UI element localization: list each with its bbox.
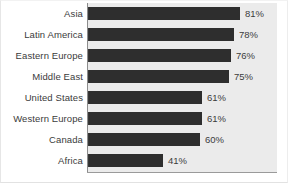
bar <box>88 112 202 125</box>
category-label: Latin America <box>0 24 83 45</box>
bar <box>88 7 240 20</box>
value-label: 75% <box>234 68 253 85</box>
bar-row: Latin America 78% <box>0 24 288 45</box>
bar-row: Asia 81% <box>0 3 288 24</box>
bar <box>88 133 200 146</box>
bar-row: Middle East 75% <box>0 66 288 87</box>
category-label: Eastern Europe <box>0 45 83 66</box>
category-label: Middle East <box>0 66 83 87</box>
value-label: 61% <box>207 110 226 127</box>
bar-row: Africa 41% <box>0 150 288 171</box>
value-label: 78% <box>239 26 258 43</box>
bar-row: United States 61% <box>0 87 288 108</box>
horizontal-bar-chart: Asia 81% Latin America 78% Eastern Europ… <box>0 0 288 183</box>
chart-screenshot: Asia 81% Latin America 78% Eastern Europ… <box>0 0 288 183</box>
category-label: United States <box>0 87 83 108</box>
value-label: 81% <box>245 5 264 22</box>
category-label: Africa <box>0 150 83 171</box>
bar <box>88 70 229 83</box>
bar-row: Western Europe 61% <box>0 108 288 129</box>
value-label: 41% <box>168 152 187 169</box>
bar-rows: Asia 81% Latin America 78% Eastern Europ… <box>0 3 288 172</box>
bar-row: Canada 60% <box>0 129 288 150</box>
bar <box>88 91 202 104</box>
x-axis-line <box>87 172 277 173</box>
bar <box>88 28 234 41</box>
category-label: Asia <box>0 3 83 24</box>
bar <box>88 154 163 167</box>
value-label: 61% <box>207 89 226 106</box>
bar-row: Eastern Europe 76% <box>0 45 288 66</box>
value-label: 60% <box>205 131 224 148</box>
bar <box>88 49 231 62</box>
category-label: Western Europe <box>0 108 83 129</box>
value-label: 76% <box>236 47 255 64</box>
category-label: Canada <box>0 129 83 150</box>
